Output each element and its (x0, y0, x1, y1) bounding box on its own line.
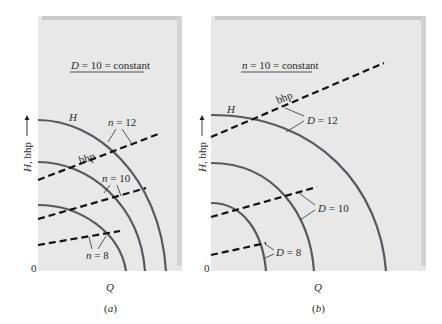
curve-label-n10: n = 10 (102, 172, 131, 184)
panel-a-top-edge (42, 16, 182, 20)
curve-label-n12: n = 12 (108, 116, 136, 128)
x-axis-label-a: Q (106, 281, 114, 293)
head-curve-label-b: H (226, 103, 236, 115)
svg-text:H, bhp: H, bhp (21, 142, 33, 173)
curve-label-d12: D = 12 (306, 114, 338, 126)
panel-a-title: D = 10 = constant (70, 59, 150, 71)
y-axis-label-b: H, bhp (196, 115, 208, 173)
curve-label-d10: D = 10 (317, 202, 349, 214)
origin-label-b: 0 (204, 262, 210, 274)
arrow-up-icon (200, 115, 205, 120)
panel-b-title: n = 10 = constant (242, 59, 319, 71)
head-curve-label-a: H (68, 111, 78, 123)
x-axis-label-b: Q (314, 281, 322, 293)
panel-b-right-edge (421, 16, 426, 266)
panel-a-right-edge (177, 16, 182, 266)
figure: D = 10 = constant H bhp n = 12 n = 10 n … (0, 0, 442, 324)
panel-b: n = 10 = constant H bhp D = 12 D = 10 D … (196, 16, 426, 315)
caption-a: (a) (104, 302, 117, 315)
panel-b-background (211, 16, 426, 271)
panel-b-top-edge (215, 16, 426, 20)
svg-text:H, bhp: H, bhp (196, 142, 208, 173)
curve-label-n8: n = 8 (86, 249, 109, 261)
origin-label-a: 0 (31, 262, 37, 274)
y-axis-label-a: H, bhp (21, 115, 33, 173)
curve-label-d8: D = 8 (275, 246, 302, 258)
panel-a: D = 10 = constant H bhp n = 12 n = 10 n … (21, 16, 182, 315)
caption-b: (b) (312, 302, 325, 315)
arrow-up-icon (25, 115, 30, 120)
